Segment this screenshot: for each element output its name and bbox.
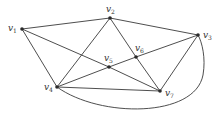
edge-v1-v5: [22, 29, 109, 67]
node-v1: [20, 27, 24, 31]
edge-v1-v4: [22, 29, 57, 87]
node-v4: [55, 85, 59, 89]
edge-v5-v7: [109, 67, 160, 91]
node-v7: [158, 89, 162, 93]
node-label-v4: v4: [44, 82, 53, 93]
node-v3: [196, 33, 200, 37]
edge-v6-v3: [136, 35, 198, 57]
curved-edge-v4-v3: [57, 35, 204, 109]
node-label-v1: v1: [8, 23, 17, 34]
edge-v4-v7: [57, 87, 160, 91]
edge-v2-v6: [110, 18, 136, 57]
node-label-v7: v7: [165, 88, 174, 99]
node-label-v6: v6: [135, 43, 144, 54]
edge-v6-v7: [136, 57, 160, 91]
edges: [22, 18, 204, 109]
node-v2: [108, 16, 112, 20]
edge-v2-v3: [110, 18, 198, 35]
node-label-v3: v3: [203, 30, 212, 41]
node-label-v5: v5: [104, 53, 113, 64]
node-v5: [107, 65, 111, 69]
edge-v3-v7: [160, 35, 198, 91]
node-v6: [134, 55, 138, 59]
edge-v5-v6: [109, 57, 136, 67]
node-label-v2: v2: [106, 4, 115, 15]
edge-v1-v2: [22, 18, 110, 29]
graph-diagram: v1v2v3v4v5v6v7: [0, 0, 224, 117]
